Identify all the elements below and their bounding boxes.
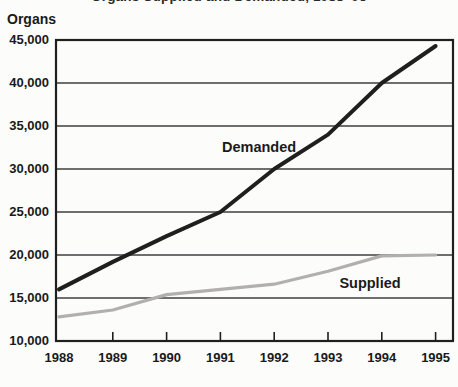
- y-tick-label: 20,000: [0, 247, 49, 262]
- y-tick-label: 45,000: [0, 32, 49, 47]
- plot-border: [56, 40, 453, 341]
- x-tick-label: 1989: [91, 350, 135, 365]
- x-tick-label: 1994: [360, 350, 404, 365]
- y-tick-label: 15,000: [0, 290, 49, 305]
- y-tick-label: 30,000: [0, 161, 49, 176]
- series-label-supplied: Supplied: [339, 275, 400, 291]
- y-tick-label: 40,000: [0, 75, 49, 90]
- y-tick-label: 25,000: [0, 204, 49, 219]
- line-chart: DemandedSupplied: [0, 0, 458, 387]
- x-tick-label: 1990: [145, 350, 189, 365]
- x-tick-label: 1993: [306, 350, 350, 365]
- y-tick-label: 35,000: [0, 118, 49, 133]
- x-tick-label: 1995: [414, 350, 458, 365]
- y-tick-label: 10,000: [0, 333, 49, 348]
- x-tick-label: 1991: [198, 350, 242, 365]
- x-tick-label: 1992: [252, 350, 296, 365]
- x-tick-label: 1988: [37, 350, 81, 365]
- chart-page: Organs Supplied and Demanded, 1988–95 Or…: [0, 0, 458, 387]
- series-label-demanded: Demanded: [222, 139, 296, 155]
